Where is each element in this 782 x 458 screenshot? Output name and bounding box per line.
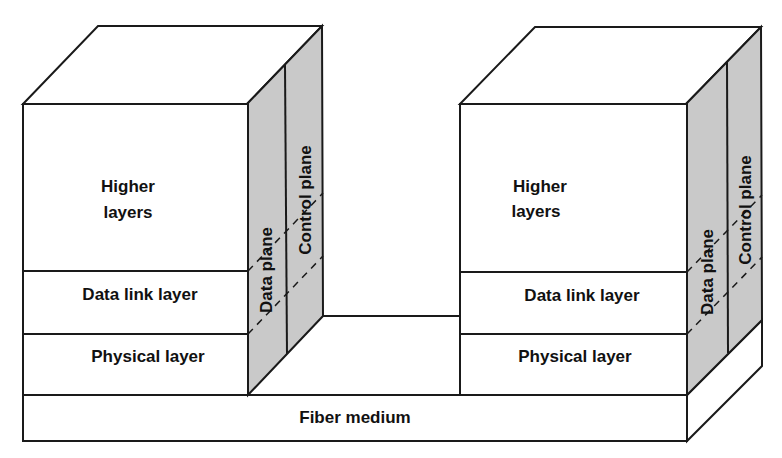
right-physical-layer-label: Physical layer (518, 347, 632, 366)
right-control-plane-label: Control plane (736, 155, 755, 265)
fiber-medium-label: Fiber medium (299, 408, 410, 427)
right-higher-layers-label-2: layers (511, 202, 560, 221)
left-higher-layers-label: Higher (101, 177, 155, 196)
protocol-stack-diagram: Higher layers Data link layer Physical l… (0, 0, 782, 458)
left-higher-layers-label-2: layers (103, 203, 152, 222)
left-node-stack (23, 26, 323, 395)
right-data-plane-label: Data plane (698, 229, 717, 315)
right-data-link-layer-label: Data link layer (524, 286, 640, 305)
left-data-link-layer-label: Data link layer (82, 285, 198, 304)
left-physical-layer-label: Physical layer (91, 347, 205, 366)
left-control-plane-label: Control plane (296, 145, 315, 255)
right-higher-layers-label: Higher (513, 177, 567, 196)
right-node-stack (460, 27, 762, 395)
left-data-plane-label: Data plane (257, 227, 276, 313)
